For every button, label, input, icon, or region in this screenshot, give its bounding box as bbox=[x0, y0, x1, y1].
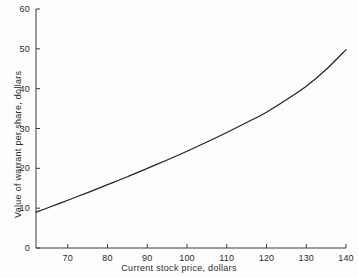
x-tick-label: 90 bbox=[142, 253, 152, 263]
x-tick-label: 140 bbox=[338, 253, 354, 263]
y-tick-label: 50 bbox=[0, 44, 30, 54]
axes bbox=[36, 9, 346, 248]
x-tick-label: 80 bbox=[102, 253, 112, 263]
y-axis-title: Value of warrant per share, dollars bbox=[13, 71, 23, 218]
y-tick-label: 60 bbox=[0, 4, 30, 14]
y-tick-label: 0 bbox=[0, 243, 30, 253]
warrant-value-chart: 0102030405060 708090100110120130140 Curr… bbox=[0, 0, 358, 278]
x-axis-title: Current stock price, dollars bbox=[0, 263, 358, 273]
warrant-value-curve bbox=[36, 50, 346, 213]
x-tick-label: 120 bbox=[259, 253, 275, 263]
plot-area bbox=[0, 0, 358, 278]
x-tick-label: 110 bbox=[219, 253, 234, 263]
x-tick-label: 130 bbox=[298, 253, 314, 263]
x-axis-ticks bbox=[68, 244, 346, 248]
x-tick-label: 70 bbox=[63, 253, 73, 263]
x-tick-label: 100 bbox=[179, 253, 195, 263]
